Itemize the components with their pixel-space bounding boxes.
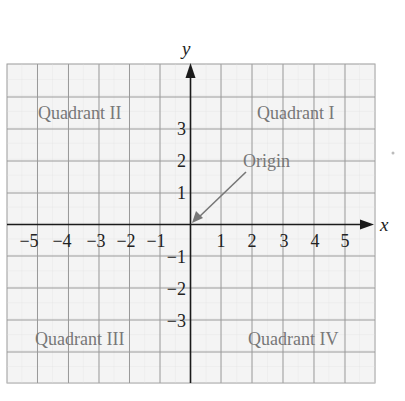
quadrant-i-label: Quadrant I: [257, 103, 334, 123]
x-tick: −4: [52, 231, 71, 251]
x-tick: −2: [116, 231, 135, 251]
y-tick: 1: [177, 183, 186, 203]
x-tick: −3: [86, 231, 105, 251]
quadrant-iii-label: Quadrant III: [35, 329, 124, 349]
coordinate-plane: x y −5 −4 −3 −2 −1 1 2 3 4 5 3 2 1 −1 −2…: [0, 0, 405, 401]
y-axis-label: y: [180, 38, 191, 59]
y-tick: −1: [167, 247, 186, 267]
y-tick: −3: [167, 311, 186, 331]
x-tick: −1: [146, 231, 165, 251]
x-tick: 2: [248, 231, 257, 251]
y-tick: −2: [167, 279, 186, 299]
y-tick: 2: [177, 151, 186, 171]
x-tick: 1: [217, 231, 226, 251]
quadrant-ii-label: Quadrant II: [38, 103, 121, 123]
x-tick: −5: [19, 231, 38, 251]
x-tick: 5: [341, 231, 350, 251]
x-tick: 4: [311, 231, 320, 251]
origin-label: Origin: [243, 151, 290, 171]
y-tick: 3: [177, 119, 186, 139]
x-tick: 3: [280, 231, 289, 251]
quadrant-iv-label: Quadrant IV: [248, 329, 338, 349]
x-axis-label: x: [379, 214, 389, 235]
speck: [392, 152, 395, 155]
